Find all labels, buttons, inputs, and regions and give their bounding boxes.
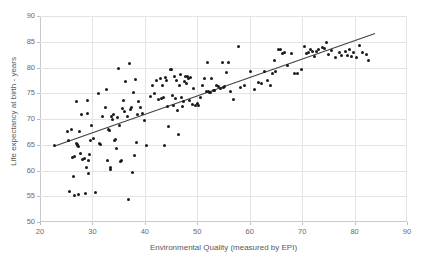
data-point [348, 48, 351, 51]
gridline-y-65 [40, 145, 407, 146]
data-point [141, 112, 144, 115]
data-point [182, 100, 185, 103]
data-point [108, 129, 111, 132]
data-point [87, 159, 90, 162]
gridline-y-75 [40, 93, 407, 94]
data-point [83, 157, 86, 160]
x-tick-mark-90 [407, 222, 408, 225]
data-point [225, 71, 228, 74]
x-axis-title: Environmental Quality (measured by EPI) [40, 243, 407, 252]
data-point [273, 59, 276, 62]
y-tick-mark-75 [37, 93, 40, 94]
data-point [111, 118, 114, 121]
data-point [311, 50, 314, 53]
data-point [181, 105, 184, 108]
y-tick-mark-60 [37, 171, 40, 172]
data-point [290, 52, 293, 55]
data-point [109, 166, 112, 169]
data-point [86, 99, 89, 102]
data-point [136, 113, 139, 116]
y-tick-mark-85 [37, 42, 40, 43]
data-point [87, 172, 90, 175]
x-tick-label-30: 30 [80, 228, 104, 236]
data-point [105, 88, 108, 91]
data-point [167, 125, 170, 128]
data-point [75, 100, 78, 103]
gridline-y-85 [40, 42, 407, 43]
data-point [239, 86, 242, 89]
data-point [80, 113, 83, 116]
data-point [88, 153, 91, 156]
data-point [367, 59, 370, 62]
data-point [223, 85, 226, 88]
data-point [266, 79, 269, 82]
data-point [221, 61, 224, 64]
gridline-y-60 [40, 171, 407, 172]
x-axis-line [40, 221, 407, 222]
data-point [232, 98, 235, 101]
data-point [170, 68, 173, 71]
data-point [227, 61, 230, 64]
data-point [120, 159, 123, 162]
data-point [97, 92, 100, 95]
data-point [355, 56, 358, 59]
gridline-x-60 [250, 16, 251, 222]
data-point [358, 44, 361, 47]
data-point [77, 193, 80, 196]
data-point [340, 54, 343, 57]
y-tick-label-55: 55 [14, 192, 35, 200]
data-point [303, 45, 306, 48]
data-point [143, 119, 146, 122]
data-point [263, 70, 266, 73]
data-point [177, 133, 180, 136]
data-point [327, 53, 330, 56]
data-point [249, 70, 252, 73]
data-point [179, 73, 182, 76]
data-point [307, 51, 310, 54]
y-tick-label-50: 50 [14, 218, 35, 226]
x-tick-label-40: 40 [133, 228, 157, 236]
data-point [283, 51, 286, 54]
data-point [175, 79, 178, 82]
data-point [73, 155, 76, 158]
gridline-x-50 [197, 16, 198, 222]
data-point [189, 76, 192, 79]
data-point [334, 56, 337, 59]
data-point [115, 147, 118, 150]
x-tick-label-70: 70 [290, 228, 314, 236]
data-point [300, 68, 303, 71]
data-point [178, 84, 181, 87]
gridline-y-90 [40, 16, 407, 17]
plot-area [40, 16, 407, 222]
x-tick-mark-20 [40, 222, 41, 225]
data-point [174, 97, 177, 100]
data-point [79, 152, 82, 155]
data-point [123, 110, 126, 113]
data-point [163, 144, 166, 147]
x-tick-label-60: 60 [238, 228, 262, 236]
data-point [192, 87, 195, 90]
data-point [159, 77, 162, 80]
data-point [68, 190, 71, 193]
data-point [149, 95, 152, 98]
data-point [330, 49, 333, 52]
scatter-chart-figure: 908580757065605550 2030405060708090 Envi… [0, 0, 423, 263]
y-tick-mark-90 [37, 16, 40, 17]
data-point [73, 194, 76, 197]
data-point [172, 104, 175, 107]
data-point [199, 96, 202, 99]
data-point [243, 84, 246, 87]
data-point [53, 144, 56, 147]
data-point [173, 75, 176, 78]
data-point [117, 67, 120, 70]
data-point [104, 106, 107, 109]
x-tick-mark-40 [145, 222, 146, 225]
data-point [325, 41, 328, 44]
data-point [164, 76, 167, 79]
data-point [269, 84, 272, 87]
data-point [165, 79, 168, 82]
data-point [84, 192, 87, 195]
data-point [365, 53, 368, 56]
data-point [94, 191, 97, 194]
gridline-y-80 [40, 68, 407, 69]
